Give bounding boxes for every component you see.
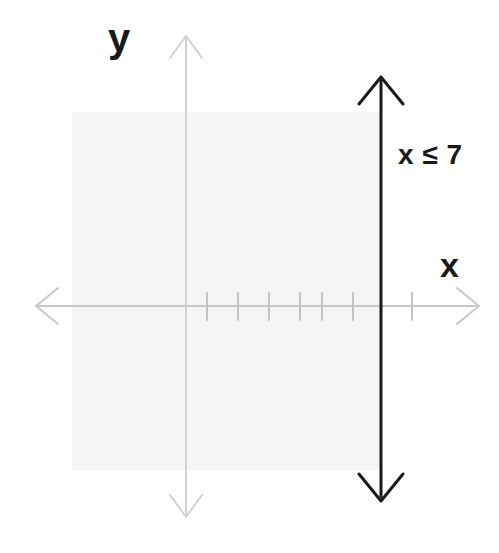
x-axis-label: x: [440, 248, 459, 282]
inequality-label: x ≤ 7: [398, 141, 463, 169]
coordinate-plane-figure: [0, 0, 499, 553]
graph-canvas: y x x ≤ 7: [0, 0, 499, 553]
shaded-solution-region: [72, 112, 381, 470]
y-axis-label: y: [108, 18, 130, 58]
